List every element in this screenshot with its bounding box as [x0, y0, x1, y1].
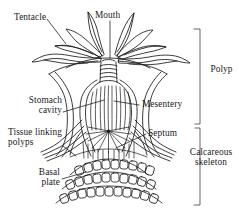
mouth-pharynx	[100, 60, 117, 83]
label-tissue-linking-line1: Tissue linking	[8, 127, 62, 137]
skeleton-cell	[123, 188, 132, 198]
label-tentacle: Tentacle	[14, 12, 46, 22]
label-tissue-linking-line2: polyps	[8, 137, 33, 147]
septum-ray-11	[109, 127, 130, 131]
pharynx-ring-3	[100, 73, 117, 75]
septum-ray-1	[88, 127, 109, 131]
skeleton-cell	[77, 188, 86, 198]
skeleton-cell	[111, 173, 119, 182]
pharynx-left-wall	[100, 62, 101, 82]
label-stomach-cavity-line2: cavity	[0, 105, 62, 115]
leader-stomach-cavity	[63, 100, 104, 112]
skeleton-cell	[102, 173, 110, 182]
label-basal-plate-line1: Basal	[0, 167, 60, 177]
skeleton-cell	[87, 188, 96, 198]
skeleton-cell	[128, 160, 137, 170]
skeleton-cell	[96, 187, 104, 196]
skeleton-cell	[120, 174, 129, 184]
label-mouth: Mouth	[95, 10, 120, 20]
plate-1	[83, 142, 84, 158]
column-outer-left	[80, 80, 97, 156]
skeleton-cell	[131, 188, 140, 198]
label-calcareous-line2: skeleton	[183, 157, 239, 167]
label-basal-plate-line2: plate	[0, 177, 60, 187]
mesentery-9	[124, 89, 126, 130]
tissue-sweep-right	[149, 74, 167, 156]
oral-disc	[49, 58, 167, 74]
label-stomach-cavity-line1: Stomach	[0, 95, 62, 105]
skeleton-cell	[68, 190, 78, 201]
pharynx-right-wall	[116, 62, 117, 82]
oral-disc-outer-left	[49, 61, 98, 74]
calcareous-skeleton	[56, 159, 162, 204]
pharynx-ring-5	[100, 81, 117, 83]
septum-ray-4	[92, 131, 109, 148]
skeleton-cell	[114, 187, 122, 196]
label-septum: Septum	[148, 128, 177, 138]
skeleton-cell	[93, 174, 102, 184]
mesenteries-group	[91, 86, 131, 130]
skeleton-cell	[92, 160, 101, 170]
tentacle-2	[55, 46, 100, 58]
pharynx-ring-2	[100, 69, 117, 71]
leader-tentacle	[47, 19, 66, 44]
mesentery-4	[104, 86, 105, 130]
mouth-opening	[102, 60, 115, 62]
label-calcareous-line1: Calcareous	[183, 147, 239, 157]
mesentery-8	[120, 87, 121, 130]
septum-ray-8	[109, 131, 126, 148]
tentacle-7	[118, 46, 166, 60]
skeleton-cell	[140, 190, 150, 201]
mesentery-1	[91, 92, 93, 130]
pharynx-ring-4	[100, 77, 117, 79]
mesentery-2	[95, 89, 97, 130]
oral-disc-outer-right	[118, 61, 167, 74]
polyp-bracket	[194, 29, 200, 124]
skeleton-cell	[105, 187, 113, 196]
mesentery-7	[116, 86, 117, 130]
figure-coral-polyp: Tentacle Mouth Stomach cavity Tissue lin…	[0, 0, 239, 215]
mesentery-3	[100, 87, 101, 130]
leader-mesentery	[114, 101, 139, 105]
skeleton-cell	[111, 160, 119, 169]
skeleton-cell	[83, 162, 93, 172]
label-mesentery: Mesentery	[142, 99, 182, 109]
side-brackets	[194, 29, 200, 205]
skeleton-cell	[102, 160, 111, 170]
tentacle-3	[66, 29, 102, 57]
pharynx-ring-1	[100, 65, 117, 67]
label-polyp: Polyp	[204, 64, 239, 74]
